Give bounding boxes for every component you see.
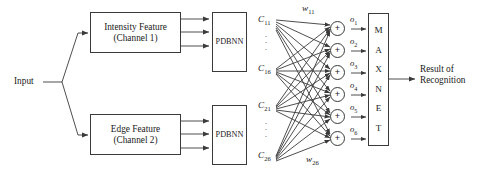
weight-label-w11: w11 <box>302 3 315 15</box>
output-label-o3: o3 <box>350 58 357 70</box>
output-label-o2: o2 <box>350 36 357 48</box>
result-label: Result of Recognition <box>420 64 465 87</box>
pdbnn-block-top: PDBNN <box>212 12 247 72</box>
intensity-feature-line1: Intensity Feature <box>104 22 167 33</box>
output-label-o4: o4 <box>350 80 357 92</box>
summation-unit-3: + <box>330 65 345 80</box>
vertical-ellipsis-bottom: ··· <box>261 120 271 139</box>
edge-feature-line1: Edge Feature <box>111 124 160 135</box>
class-node-c16: C16 <box>258 63 271 75</box>
summation-unit-1: + <box>330 21 345 36</box>
output-label-o1: o1 <box>350 14 357 26</box>
class-node-c26: C26 <box>258 150 271 162</box>
maxnet-letter-e: E <box>376 104 382 113</box>
edge-feature-line2: (Channel 2) <box>113 135 157 146</box>
maxnet-letter-m: M <box>374 26 382 35</box>
maxnet-letter-n: N <box>375 85 382 94</box>
result-line2: Recognition <box>420 75 465 86</box>
pdbnn-bottom-label: PDBNN <box>216 130 244 140</box>
pdbnn-top-label: PDBNN <box>216 37 244 47</box>
vertical-ellipsis-top: ··· <box>261 33 271 52</box>
intensity-feature-block: Intensity Feature (Channel 1) <box>90 12 181 53</box>
class-node-c21: C21 <box>258 100 271 112</box>
input-label: Input <box>14 76 34 87</box>
summation-unit-4: + <box>330 87 345 102</box>
output-label-o6: o6 <box>350 124 357 136</box>
pdbnn-block-bottom: PDBNN <box>212 105 247 165</box>
summation-unit-6: + <box>330 131 345 146</box>
summation-unit-2: + <box>330 43 345 58</box>
maxnet-letter-t: T <box>376 124 382 133</box>
output-label-o5: o5 <box>350 102 357 114</box>
diagram-canvas: Input Intensity Feature (Channel 1) Edge… <box>0 0 492 172</box>
result-line1: Result of <box>420 64 465 75</box>
class-node-c11: C11 <box>258 14 271 26</box>
weight-label-w26: w26 <box>306 154 319 166</box>
maxnet-letter-a: A <box>375 46 382 55</box>
edge-feature-block: Edge Feature (Channel 2) <box>90 114 181 155</box>
summation-unit-5: + <box>330 109 345 124</box>
maxnet-block: M A X N E T <box>368 13 389 146</box>
intensity-feature-line2: (Channel 1) <box>113 33 157 44</box>
maxnet-letter-x: X <box>375 65 382 74</box>
